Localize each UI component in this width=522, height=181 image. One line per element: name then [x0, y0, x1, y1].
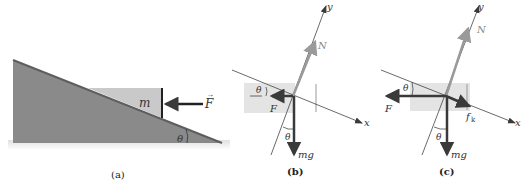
- force-vector-overbar: →: [206, 90, 214, 99]
- force-label-c: F: [384, 103, 393, 114]
- friction-subscript-c: k: [471, 116, 476, 124]
- y-axis-label-c: y: [477, 1, 484, 12]
- caption-a: (a): [111, 169, 125, 180]
- angle-arc-2: [434, 127, 447, 129]
- diagram-canvas: m F → θ (a) y x N F mg θ θ (b) y x N F f…: [0, 0, 522, 181]
- angle-label-b1: θ: [256, 85, 262, 95]
- angle-label-c2: θ: [436, 132, 442, 142]
- normal-label-c: N: [476, 24, 487, 35]
- panel-a: [8, 60, 230, 150]
- caption-b: (b): [287, 166, 303, 177]
- normal-arrow-N: [293, 42, 315, 96]
- caption-c: (c): [439, 166, 455, 177]
- mass-label: m: [139, 96, 150, 110]
- force-label-a: F: [204, 97, 214, 111]
- normal-label-b: N: [317, 40, 328, 51]
- panel-c: [381, 6, 515, 155]
- weight-label-c: mg: [451, 149, 467, 160]
- panel-b: [232, 6, 362, 155]
- y-axis-label-b: y: [326, 1, 333, 12]
- angle-label-c1: θ: [403, 83, 409, 93]
- x-axis-label-b: x: [364, 117, 370, 128]
- force-label-b: F: [269, 103, 278, 114]
- x-axis-label-c: x: [515, 117, 521, 128]
- angle-label-a: θ: [177, 133, 183, 144]
- angle-label-b2: θ: [285, 132, 291, 142]
- angle-arc-2: [283, 127, 294, 129]
- weight-label-b: mg: [298, 149, 314, 160]
